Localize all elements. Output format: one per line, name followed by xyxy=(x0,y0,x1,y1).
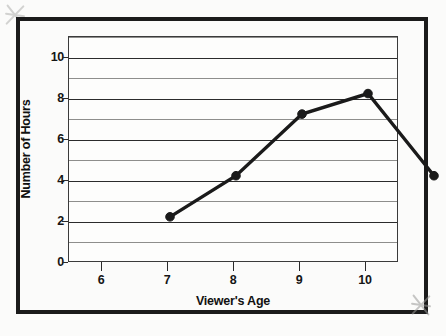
data-point-9-10 xyxy=(364,89,373,98)
y-tick-mark-6 xyxy=(62,139,68,140)
y-tick-mark-10 xyxy=(62,57,68,58)
plot-area xyxy=(68,36,398,262)
data-point-8-9 xyxy=(298,110,307,119)
x-tick-label-6: 6 xyxy=(98,273,105,287)
y-tick-mark-4 xyxy=(62,180,68,181)
y-axis-title-wrap: Number of Hours xyxy=(14,36,38,262)
data-marker-group xyxy=(166,89,439,221)
data-point-6-4 xyxy=(166,213,175,222)
x-tick-label-9: 9 xyxy=(296,273,303,287)
x-tick-mark-9 xyxy=(299,262,300,271)
y-axis-title: Number of Hours xyxy=(19,99,33,198)
line-chart-figure: 0246810 678910 Number of Hours Viewer's … xyxy=(0,0,446,336)
x-tick-label-7: 7 xyxy=(164,273,171,287)
x-tick-mark-7 xyxy=(167,262,168,271)
x-tick-mark-8 xyxy=(233,262,234,271)
gridline-y-11 xyxy=(69,37,397,38)
x-tick-label-8: 8 xyxy=(230,273,237,287)
x-tick-label-10: 10 xyxy=(358,273,371,287)
gridline-y-10 xyxy=(69,58,397,59)
y-tick-mark-8 xyxy=(62,98,68,99)
data-point-7-6 xyxy=(232,171,241,180)
x-axis-ticks: 678910 xyxy=(68,262,398,296)
y-axis-tick-labels: 0246810 xyxy=(40,36,64,262)
x-axis-title: Viewer's Age xyxy=(68,294,398,308)
data-point-10-6 xyxy=(430,171,439,180)
x-tick-mark-10 xyxy=(365,262,366,271)
y-tick-mark-2 xyxy=(62,221,68,222)
x-tick-mark-6 xyxy=(101,262,102,271)
page-canvas: 0246810 678910 Number of Hours Viewer's … xyxy=(0,0,446,336)
